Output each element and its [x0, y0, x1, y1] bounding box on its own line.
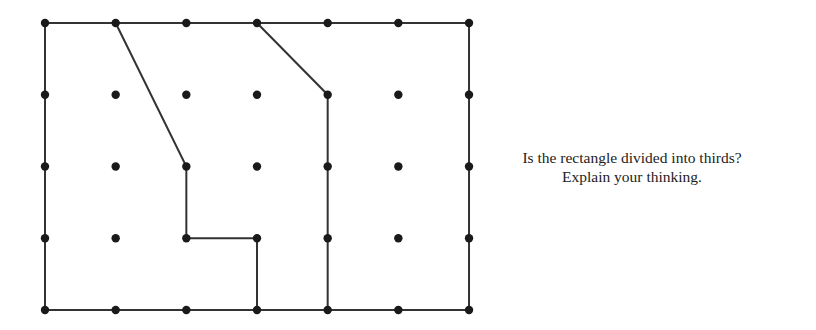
- grid-dot: [111, 306, 119, 314]
- grid-dot: [394, 91, 402, 99]
- grid-dot: [111, 234, 119, 242]
- grid-dot: [41, 91, 49, 99]
- question-line-1: Is the rectangle divided into thirds?: [482, 148, 782, 167]
- grid-dot: [323, 91, 331, 99]
- grid-dot: [253, 234, 261, 242]
- grid-dot: [394, 19, 402, 27]
- grid-dot: [253, 91, 261, 99]
- grid-dot: [182, 91, 190, 99]
- grid-dot: [465, 19, 473, 27]
- question-line-2: Explain your thinking.: [482, 167, 782, 186]
- grid-dot: [182, 19, 190, 27]
- grid-dot: [465, 306, 473, 314]
- grid-dot: [323, 19, 331, 27]
- grid-dot: [41, 19, 49, 27]
- grid-dot: [323, 162, 331, 170]
- grid-dot: [394, 234, 402, 242]
- grid-dot: [182, 162, 190, 170]
- grid-dot: [253, 19, 261, 27]
- grid-dot: [465, 162, 473, 170]
- grid-dot: [323, 306, 331, 314]
- grid-dot: [253, 162, 261, 170]
- grid-dot: [394, 306, 402, 314]
- grid-dot: [41, 306, 49, 314]
- grid-dot: [323, 234, 331, 242]
- grid-dot: [182, 306, 190, 314]
- right-divider: [257, 23, 328, 310]
- grid-dot: [41, 234, 49, 242]
- grid-dot: [465, 234, 473, 242]
- grid-dot: [253, 306, 261, 314]
- grid-dot: [41, 162, 49, 170]
- grid-dot: [182, 234, 190, 242]
- grid-dot: [394, 162, 402, 170]
- partition-lines: [116, 23, 328, 310]
- grid-dot: [111, 19, 119, 27]
- question-text: Is the rectangle divided into thirds? Ex…: [482, 148, 782, 186]
- grid-dot: [465, 91, 473, 99]
- grid-dot: [111, 162, 119, 170]
- grid-dot: [111, 91, 119, 99]
